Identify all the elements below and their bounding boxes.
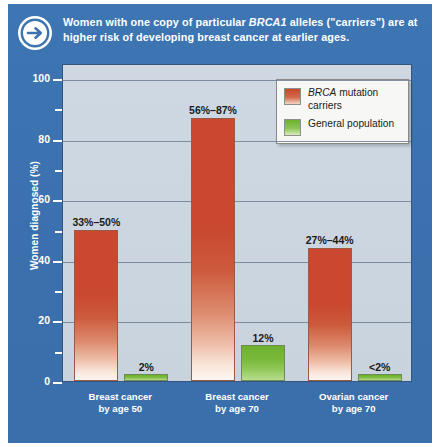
figure-root: Women with one copy of particular BRCA1 … — [0, 0, 442, 447]
y-tick-label: 20 — [8, 314, 50, 326]
callout-text: Women with one copy of particular BRCA1 … — [63, 15, 423, 46]
x-axis-label: Breast cancerby age 50 — [62, 391, 179, 415]
x-axis-label-line: by age 70 — [295, 403, 412, 415]
bar-label-carriers: 33%–50% — [56, 216, 136, 228]
y-tick-minor — [55, 231, 62, 233]
y-tick-major — [53, 200, 62, 202]
y-tick-major — [53, 261, 62, 263]
bar-label-general: 2% — [110, 361, 182, 373]
y-tick-major — [53, 321, 62, 323]
legend: BRCA mutation carriers General populatio… — [276, 79, 409, 144]
bar-general — [124, 374, 168, 381]
legend-swatch-carriers — [284, 88, 301, 105]
x-axis-label-line: Ovarian cancer — [295, 391, 412, 403]
chart: Women diagnosed (%) BRCA mutation carrie… — [8, 60, 432, 443]
y-tick-minor — [55, 109, 62, 111]
y-tick-label: 100 — [8, 72, 50, 84]
bar-general — [358, 374, 402, 381]
x-axis-label-line: by age 70 — [179, 403, 296, 415]
y-tick-major — [53, 140, 62, 142]
bar-label-general: 12% — [227, 332, 299, 344]
callout-header: Women with one copy of particular BRCA1 … — [8, 4, 432, 60]
y-tick-label: 80 — [8, 133, 50, 145]
y-tick-label: 40 — [8, 254, 50, 266]
legend-item-carriers: BRCA mutation carriers — [284, 87, 400, 112]
bar-label-general: <2% — [344, 361, 416, 373]
plot-area: BRCA mutation carriers General populatio… — [62, 64, 412, 382]
y-tick-label: 0 — [8, 375, 50, 387]
bar-label-carriers: 56%–87% — [173, 104, 253, 116]
gridline — [63, 80, 411, 81]
legend-label-carriers: BRCA mutation carriers — [308, 87, 400, 112]
arrow-right-circle-icon — [18, 16, 52, 50]
x-axis-label-line: Breast cancer — [179, 391, 296, 403]
legend-swatch-general — [284, 119, 301, 136]
legend-item-general: General population — [284, 118, 400, 136]
y-tick-minor — [55, 170, 62, 172]
callout-text-italic: BRCA1 — [249, 16, 287, 28]
y-tick-major — [53, 382, 62, 384]
x-axis-label: Breast cancerby age 70 — [179, 391, 296, 415]
y-tick-major — [53, 79, 62, 81]
gridline — [63, 141, 411, 142]
x-axis-label: Ovarian cancerby age 70 — [295, 391, 412, 415]
bar-carriers — [74, 230, 118, 381]
y-tick-minor — [55, 291, 62, 293]
y-tick-minor — [55, 352, 62, 354]
bar-general — [241, 345, 285, 381]
gridline — [63, 201, 411, 202]
callout-text-before: Women with one copy of particular — [63, 16, 249, 28]
x-axis-label-line: Breast cancer — [62, 391, 179, 403]
bar-label-carriers: 27%–44% — [290, 234, 370, 246]
x-axis-label-line: by age 50 — [62, 403, 179, 415]
y-tick-label: 60 — [8, 193, 50, 205]
legend-label-general: General population — [308, 118, 394, 131]
